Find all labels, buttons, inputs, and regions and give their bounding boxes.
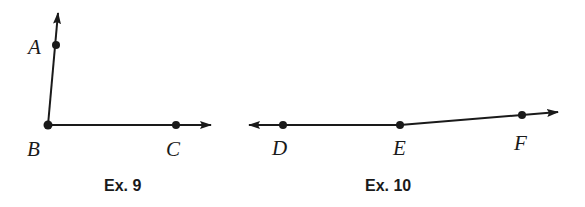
label-F: F [513, 131, 527, 155]
label-E: E [392, 136, 406, 160]
geometry-diagram: A B C Ex. 9 D E F Ex. 10 [0, 0, 585, 207]
ray-BA [48, 13, 58, 125]
caption-ex10: Ex. 10 [365, 177, 411, 194]
point-C [172, 121, 180, 129]
point-B [44, 121, 53, 130]
caption-ex9: Ex. 9 [104, 177, 141, 194]
point-D [279, 121, 287, 129]
label-B: B [27, 137, 40, 161]
label-A: A [26, 35, 41, 59]
ray-EF [400, 112, 558, 125]
point-F [518, 111, 526, 119]
figure-ex9: A B C Ex. 9 [26, 13, 211, 194]
point-E [396, 121, 404, 129]
figure-ex10: D E F Ex. 10 [249, 111, 558, 194]
label-C: C [166, 137, 181, 161]
point-A [52, 41, 60, 49]
label-D: D [271, 136, 287, 160]
